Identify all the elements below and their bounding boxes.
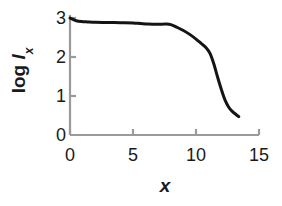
axis-lines [70, 15, 259, 135]
data-series-group [70, 18, 239, 117]
series-line-0 [70, 18, 239, 117]
plot-area [0, 0, 282, 206]
tick-marks [70, 18, 259, 135]
survivorship-curve-figure: log lx 0123 051015 x [0, 0, 282, 206]
